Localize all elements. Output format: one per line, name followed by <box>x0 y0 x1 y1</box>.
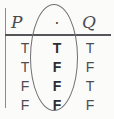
column-header-q: Q <box>82 14 96 31</box>
cell-q-1: F <box>77 58 103 77</box>
cell-q-0: T <box>77 39 103 58</box>
cell-q-2: T <box>77 77 103 96</box>
truth-table-figure: P · Q T T F F T F F F T F T F <box>0 0 114 119</box>
cell-p-2: F <box>12 77 38 96</box>
column-values-q: T F T F <box>77 39 103 115</box>
cell-result-0: T <box>44 39 70 58</box>
cell-p-3: F <box>12 96 38 115</box>
column-values-result: T F F F <box>44 39 70 115</box>
column-values-p: T T F F <box>12 39 38 115</box>
cell-result-1: F <box>44 58 70 77</box>
cell-result-3: F <box>44 96 70 115</box>
cell-p-1: T <box>12 58 38 77</box>
column-header-p: P <box>11 14 22 31</box>
cell-p-0: T <box>12 39 38 58</box>
cell-q-3: F <box>77 96 103 115</box>
cell-result-2: F <box>44 77 70 96</box>
vertical-rule <box>5 8 6 108</box>
